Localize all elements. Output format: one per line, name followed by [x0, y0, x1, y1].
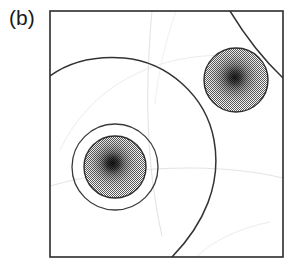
blob-upper-right — [204, 48, 268, 112]
figure-panel: (b) — [0, 0, 296, 264]
plot-background — [50, 11, 283, 257]
plot-canvas — [0, 0, 296, 264]
blob-lower-left — [84, 136, 146, 198]
